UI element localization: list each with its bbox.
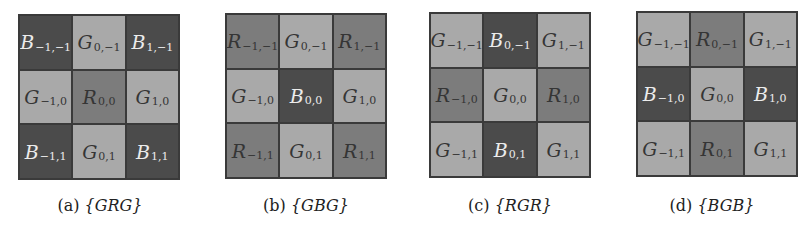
caption-label: (b) — [263, 196, 286, 215]
cell-letter: G — [289, 140, 304, 162]
cell-d-8: G1,1 — [744, 121, 797, 176]
cell-subscript: −1,0 — [40, 95, 67, 108]
cell-subscript: −1,1 — [247, 149, 274, 162]
cell-letter: G — [285, 30, 300, 52]
cell-subscript: 0,0 — [98, 95, 116, 108]
cell-a-0: B−1,−1 — [19, 15, 72, 70]
cell-subscript: 1,0 — [359, 94, 377, 107]
cell-letter: B — [754, 83, 768, 105]
cell-a-4: R0,0 — [72, 70, 125, 125]
cell-subscript: 1,1 — [358, 149, 376, 162]
cell-letter: G — [435, 139, 450, 161]
cell-subscript: −1,−1 — [242, 40, 278, 53]
cell-letter: G — [642, 138, 657, 160]
cell-c-0: G−1,−1 — [430, 13, 483, 68]
cell-a-6: B−1,1 — [19, 124, 72, 179]
caption-pattern: {GBG} — [291, 196, 349, 215]
cell-d-5: B1,0 — [744, 67, 797, 122]
cell-letter: R — [343, 140, 357, 162]
cell-subscript: −1,−1 — [447, 39, 483, 52]
cell-subscript: 1,0 — [769, 92, 787, 105]
cell-letter: R — [436, 84, 450, 106]
panel-b: R−1,−1 G0,−1 R1,−1 G−1,0 B0,0 G1,0 R−1,1… — [206, 0, 406, 239]
cell-b-6: R−1,1 — [226, 123, 279, 178]
panel-d: G−1,−1 R0,−1 G1,−1 B−1,0 G0,0 B1,0 G−1,1… — [612, 0, 812, 239]
cell-letter: B — [290, 85, 304, 107]
cell-letter: G — [546, 139, 561, 161]
cell-letter: B — [131, 31, 145, 53]
bayer-grid-c: G−1,−1 B0,−1 G1,−1 R−1,0 G0,0 R1,0 G−1,1… — [429, 12, 591, 178]
cell-letter: R — [227, 30, 241, 52]
cell-subscript: −1,1 — [40, 150, 67, 163]
cell-b-8: R1,1 — [333, 123, 386, 178]
cell-letter: G — [135, 86, 150, 108]
cell-letter: G — [749, 28, 764, 50]
cell-letter: R — [83, 86, 97, 108]
cell-subscript: −1,−1 — [654, 38, 690, 51]
cell-letter: B — [494, 139, 508, 161]
cell-subscript: −1,0 — [247, 94, 274, 107]
cell-subscript: 1,0 — [152, 95, 170, 108]
cell-subscript: −1,1 — [451, 148, 478, 161]
cell-b-5: G1,0 — [333, 69, 386, 124]
caption-d: (d) {BGB} — [612, 196, 812, 215]
cell-a-8: B1,1 — [126, 124, 179, 179]
cell-d-2: G1,−1 — [744, 12, 797, 67]
cell-c-4: G0,0 — [483, 68, 536, 123]
cell-a-3: G−1,0 — [19, 70, 72, 125]
cell-letter: G — [342, 85, 357, 107]
cell-b-1: G0,−1 — [279, 14, 332, 69]
cell-d-7: R0,1 — [690, 121, 743, 176]
cell-subscript: 1,1 — [563, 148, 581, 161]
caption-b: (b) {GBG} — [206, 196, 406, 215]
cell-subscript: −1,1 — [658, 147, 685, 160]
cell-a-2: B1,−1 — [126, 15, 179, 70]
caption-c: (c) {RGR} — [410, 196, 610, 215]
cell-subscript: 1,0 — [562, 93, 580, 106]
cell-subscript: 1,−1 — [765, 38, 792, 51]
cell-letter: R — [701, 138, 715, 160]
cell-a-5: G1,0 — [126, 70, 179, 125]
cell-subscript: 0,0 — [716, 92, 734, 105]
cell-letter: R — [696, 28, 710, 50]
cell-letter: G — [638, 28, 653, 50]
cell-d-6: G−1,1 — [637, 121, 690, 176]
cell-letter: B — [20, 31, 34, 53]
cell-b-0: R−1,−1 — [226, 14, 279, 69]
cell-subscript: 0,1 — [509, 148, 527, 161]
cell-subscript: 0,0 — [305, 94, 323, 107]
cell-c-8: G1,1 — [537, 122, 590, 177]
cell-c-3: R−1,0 — [430, 68, 483, 123]
cell-letter: B — [136, 141, 150, 163]
cell-d-4: G0,0 — [690, 67, 743, 122]
cell-subscript: 1,−1 — [354, 40, 381, 53]
cell-subscript: 1,−1 — [558, 39, 585, 52]
cell-c-1: B0,−1 — [483, 13, 536, 68]
cell-letter: G — [542, 29, 557, 51]
cell-b-3: G−1,0 — [226, 69, 279, 124]
caption-label: (d) — [670, 196, 693, 215]
cell-c-2: G1,−1 — [537, 13, 590, 68]
cell-a-7: G0,1 — [72, 124, 125, 179]
cell-c-7: B0,1 — [483, 122, 536, 177]
cell-b-4: B0,0 — [279, 69, 332, 124]
caption-pattern: {BGB} — [697, 196, 754, 215]
caption-pattern: {GRG} — [85, 196, 143, 215]
bayer-grid-b: R−1,−1 G0,−1 R1,−1 G−1,0 B0,0 G1,0 R−1,1… — [225, 13, 387, 179]
cell-subscript: 0,1 — [305, 149, 323, 162]
cell-c-6: G−1,1 — [430, 122, 483, 177]
cell-subscript: 1,1 — [151, 150, 169, 163]
cell-subscript: 0,−1 — [504, 39, 531, 52]
panel-c: G−1,−1 B0,−1 G1,−1 R−1,0 G0,0 R1,0 G−1,1… — [410, 0, 610, 239]
cell-c-5: R1,0 — [537, 68, 590, 123]
bayer-grid-d: G−1,−1 R0,−1 G1,−1 B−1,0 G0,0 B1,0 G−1,1… — [636, 11, 798, 177]
cell-subscript: 1,1 — [770, 147, 788, 160]
cell-letter: B — [489, 29, 503, 51]
cell-letter: R — [547, 84, 561, 106]
cell-letter: R — [338, 30, 352, 52]
cell-subscript: 1,−1 — [146, 41, 173, 54]
cell-subscript: 0,−1 — [301, 40, 328, 53]
cell-subscript: 0,1 — [98, 150, 116, 163]
caption-label: (c) — [468, 196, 489, 215]
cell-subscript: 0,−1 — [711, 38, 738, 51]
